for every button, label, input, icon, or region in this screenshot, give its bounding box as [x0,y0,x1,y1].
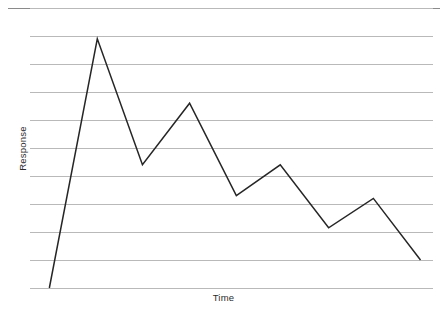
data-series-line [30,8,433,288]
y-axis-title-label: Response [17,126,28,170]
cut-off-header-text [150,0,300,6]
plot-area [30,8,433,288]
gridline [30,288,433,289]
chart-figure: Response Time [0,0,447,315]
x-axis-title: Time [0,292,447,303]
y-axis-title: Response [8,8,30,288]
